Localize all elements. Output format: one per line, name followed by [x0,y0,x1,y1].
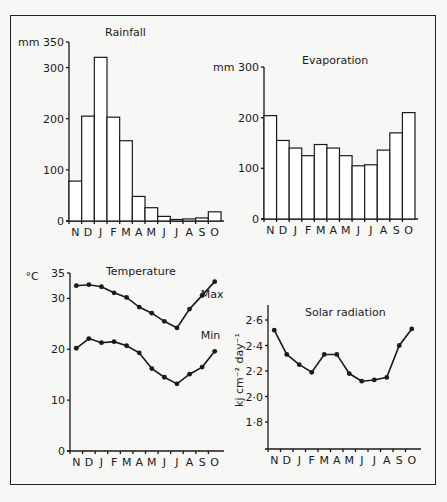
y-tick-label: mm 300 [213,61,259,74]
bar [82,116,95,221]
data-point [322,352,327,357]
bar [208,212,221,221]
bar [196,218,209,221]
y-tick-label: 0 [58,445,65,458]
y-tick-label: 100 [43,164,64,177]
data-point [162,319,167,324]
data-point [200,365,205,370]
bar [170,219,183,221]
data-point [175,381,180,386]
x-tick-label: F [111,456,117,469]
data-point [112,339,117,344]
data-point [137,305,142,310]
bar [289,148,302,219]
x-tick-label: J [297,454,301,467]
x-tick-label: J [174,456,178,469]
chart-title: Temperature [105,265,176,278]
y-tick-label: 1·8 [246,416,264,429]
temperature-chart: NDJFMAMJJASO010203035Temperature°CMaxMin [25,265,224,469]
bar [340,156,353,219]
x-tick-label: S [393,224,400,237]
y-tick-label: 300 [43,62,64,75]
data-point [409,327,414,332]
x-tick-label: J [368,224,372,237]
y-tick-label: 2·6 [246,314,264,327]
x-tick-label: J [174,226,178,239]
bar [107,117,120,221]
bar [377,150,390,219]
x-tick-label: A [186,456,194,469]
y-axis-label: °C [25,270,39,283]
x-tick-label: A [135,226,143,239]
data-point [384,375,389,380]
x-tick-label: A [186,226,194,239]
data-point [99,284,104,289]
x-tick-label: J [162,456,166,469]
data-point [372,378,377,383]
y-tick-label: 35 [51,267,65,280]
x-tick-label: M [121,226,131,239]
series-line [274,329,412,381]
data-point [137,350,142,355]
x-tick-label: N [71,226,79,239]
y-tick-label: 2·4 [246,340,264,353]
x-tick-label: O [210,226,219,239]
rainfall-chart: NDJFMAMJJASO0100200300mm 350Rainfall [18,26,224,239]
y-tick-label: 200 [238,112,259,125]
data-point [297,362,302,367]
series-line [76,339,214,384]
data-point [149,311,154,316]
data-point [162,375,167,380]
data-point [187,307,192,312]
x-tick-label: O [404,224,413,237]
chart-title: Rainfall [105,26,146,39]
data-point [284,352,289,357]
x-tick-label: J [372,454,376,467]
data-point [187,372,192,377]
bar [145,208,158,221]
x-tick-label: F [305,224,311,237]
y-tick-label: 100 [238,162,259,175]
data-point [359,379,364,384]
series-label: Min [201,329,221,342]
chart-title: Solar radiation [305,306,386,319]
bar [69,181,82,221]
evaporation-chart: NDJFMAMJJASO0100200mm 300Evaporation [213,54,418,237]
y-tick-label: 0 [57,215,64,228]
data-point [74,346,79,351]
y-axis-label: kj cm⁻² day⁻¹ [233,333,246,407]
data-point [212,349,217,354]
solar-radiation-chart: NDJFMAMJJASO1·82·02·22·42·6Solar radiati… [233,305,421,467]
bar [264,116,277,219]
data-point [99,340,104,345]
x-tick-label: M [147,456,157,469]
x-tick-label: N [270,454,278,467]
bar [390,133,403,219]
x-tick-label: A [333,454,341,467]
data-point [175,326,180,331]
y-tick-label: 20 [51,343,65,356]
x-tick-label: M [316,224,326,237]
x-tick-label: J [99,456,103,469]
x-tick-label: M [345,454,355,467]
bar [302,156,315,219]
x-tick-label: J [359,454,363,467]
bar [314,145,327,219]
x-tick-label: A [380,224,388,237]
x-tick-label: M [320,454,330,467]
x-tick-label: S [396,454,403,467]
y-tick-label: 10 [51,394,65,407]
data-point [86,336,91,341]
data-point [124,295,129,300]
bar [120,141,133,221]
data-point [112,290,117,295]
bar [352,166,365,219]
x-tick-label: M [341,224,351,237]
data-point [86,282,91,287]
y-tick-label: 200 [43,113,64,126]
bar [183,219,196,221]
x-tick-label: O [407,454,416,467]
chart-title: Evaporation [302,54,368,67]
series-label: Max [201,288,224,301]
x-tick-label: J [356,224,360,237]
